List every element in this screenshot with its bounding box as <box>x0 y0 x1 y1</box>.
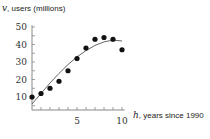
data-point <box>83 45 88 50</box>
data-point <box>101 35 106 40</box>
data-point <box>92 37 97 42</box>
data-point <box>47 86 52 91</box>
data-point <box>29 94 34 99</box>
y-tick-label: 40 <box>16 40 28 50</box>
data-point <box>74 56 79 61</box>
data-point <box>38 91 43 96</box>
x-tick-label: 10 <box>116 116 128 126</box>
y-tick-label: 50 <box>16 22 28 32</box>
y-tick-label: 10 <box>16 92 28 102</box>
chart: 1020304050510 v, users (millions) h, yea… <box>0 0 210 139</box>
y-tick-label: 30 <box>16 57 28 67</box>
y-tick-label: 20 <box>16 75 28 85</box>
fit-curve-path <box>32 40 122 104</box>
data-point <box>56 79 61 84</box>
data-point <box>65 68 70 73</box>
y-axis-title: v, users (millions) <box>2 3 66 13</box>
x-tick-label: 5 <box>74 116 80 126</box>
data-point <box>110 37 115 42</box>
x-axis-title: h, years since 1990 <box>133 110 204 120</box>
fitted-curve <box>32 40 122 104</box>
data-point <box>119 47 124 52</box>
